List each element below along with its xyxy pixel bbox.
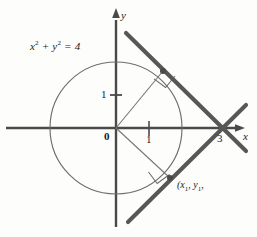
tangent-point-lower-dot bbox=[167, 175, 173, 181]
origin-label: 0 bbox=[104, 131, 110, 142]
y-tick-1-label: 1 bbox=[101, 89, 107, 100]
tangent-point-coordinate-label: (x1, y1, bbox=[177, 180, 204, 193]
radius-lower bbox=[116, 128, 170, 178]
equation-x-exponent: 2 bbox=[35, 39, 39, 47]
tangent-point-upper-dot bbox=[160, 68, 166, 74]
coordinate-trailing: , bbox=[201, 179, 204, 190]
circle-equation-label: x2 + y2 = 4 bbox=[30, 40, 80, 52]
figure-canvas bbox=[0, 0, 257, 237]
x-axis-label: x bbox=[243, 131, 248, 142]
geometry-figure: x2 + y2 = 4 y x 0 1 1 3 (x1, y1, bbox=[0, 0, 257, 237]
equation-plus-sign: + bbox=[42, 40, 50, 52]
x-tick-1-label: 1 bbox=[146, 134, 152, 145]
radius-upper bbox=[116, 71, 163, 128]
equation-equals-value: = 4 bbox=[64, 40, 80, 52]
x-intercept-3-label: 3 bbox=[217, 133, 223, 144]
tangent-line-upper bbox=[126, 33, 246, 151]
tangent-line-lower bbox=[128, 105, 246, 222]
x-axis bbox=[6, 124, 245, 132]
equation-y-exponent: 2 bbox=[57, 39, 61, 47]
coordinate-y-part: , y bbox=[188, 179, 197, 190]
coordinate-x-part: (x bbox=[177, 179, 185, 190]
y-axis-label: y bbox=[121, 10, 126, 21]
